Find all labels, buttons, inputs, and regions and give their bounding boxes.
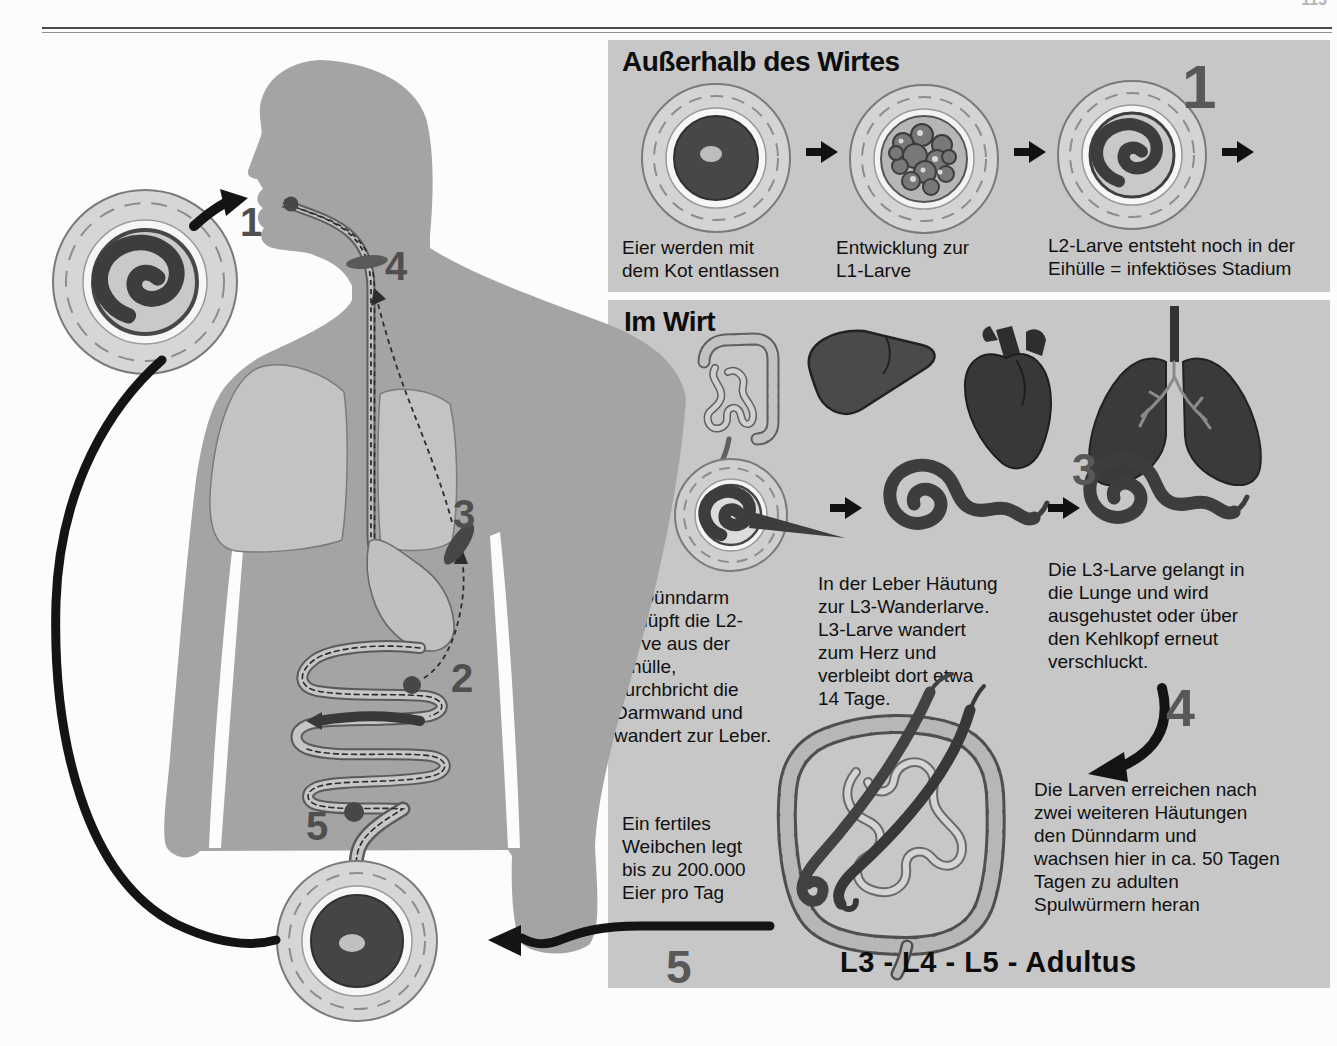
body-lungs-icon <box>210 365 457 552</box>
step-arrow-icon <box>830 497 862 519</box>
body-esophagus-icon <box>283 203 396 577</box>
panel-inside-host: Im Wirt <box>608 300 1330 988</box>
panel-outside-host: Außerhalb des Wirtes <box>608 40 1330 292</box>
stage5-rectum-egg-dot <box>344 802 364 822</box>
step-arrow-icon <box>1222 141 1254 163</box>
page-number: 115 <box>1301 0 1327 9</box>
panel-stage-number-2: 2 <box>650 428 677 476</box>
stage4-throat-larva-icon <box>345 253 388 271</box>
body-stage-number-4: 4 <box>385 246 407 286</box>
text-fertile-female: Ein fertiles Weibchen legt bis zu 200.00… <box>622 812 792 904</box>
l3-wander-larva-icon <box>890 465 1047 523</box>
body-stage-number-2: 2 <box>451 658 473 698</box>
text-small-intestine-stage: Die Larven erreichen nach zwei weiteren … <box>1034 778 1334 916</box>
l3-lung-larva-icon <box>1090 459 1247 517</box>
stage1-mouth-larva-dot <box>284 197 299 212</box>
egg-hatching-icon <box>675 459 845 571</box>
step-arrow-icon <box>1014 141 1046 163</box>
panel-stage-number-1: 1 <box>1182 56 1216 118</box>
body-stage-number-5: 5 <box>306 806 328 846</box>
organ-icons-row <box>608 306 1330 486</box>
caption-egg-released: Eier werden mit dem Kot entlassen <box>622 236 807 282</box>
fresh-egg-illustration <box>277 861 437 1021</box>
step-arrow-icon <box>806 141 838 163</box>
panel-stage-number-5: 5 <box>666 944 692 990</box>
stage2-duodenum-larva-dot <box>403 676 421 694</box>
panel-host-title: Im Wirt <box>624 306 715 338</box>
larva-migration-route <box>376 296 464 678</box>
step-arrow-icon <box>1048 497 1080 519</box>
gut-route-arrowhead-icon <box>306 712 322 730</box>
panel-stage-number-4: 4 <box>1166 682 1195 734</box>
page-top-rule <box>42 27 1332 33</box>
liver-icon <box>809 331 935 414</box>
egg-fresh-icon <box>642 84 790 232</box>
text-liver-stage: In der Leber Häutung zur L3-Wanderlarve.… <box>818 572 1033 710</box>
egg-morula-icon <box>850 85 998 233</box>
route-arrowhead-icon <box>371 288 386 306</box>
caption-l2-infective: L2-Larve entsteht noch in der Eihülle = … <box>890 234 1310 280</box>
body-stage-number-1: 1 <box>240 202 262 242</box>
heart-icon <box>965 326 1051 468</box>
body-stomach-icon <box>367 539 454 651</box>
route-arrowhead-icon <box>351 866 366 882</box>
route-arrowhead-icon <box>454 546 468 564</box>
adult-worm-in-gut-icon <box>318 716 420 721</box>
step-arrow-icon <box>613 497 645 519</box>
egg-release-arrowhead-icon <box>488 925 521 956</box>
text-duodenum-stage: Im Dünndarm schlüpft die L2- Larve aus d… <box>614 586 779 747</box>
development-stages-label: L3 - L4 - L5 - Adultus <box>840 946 1137 979</box>
text-lung-stage: Die L3-Larve gelangt in die Lunge und wi… <box>1048 558 1308 673</box>
panel-outside-title: Außerhalb des Wirtes <box>622 46 900 78</box>
intestine-with-adult-worms-illustration <box>756 672 1032 982</box>
lungs-icon <box>1089 306 1261 485</box>
panel-stage-number-3: 3 <box>1072 448 1096 492</box>
textbook-figure-ascaris-lifecycle: 115 <box>0 0 1337 1046</box>
infective-egg-illustration <box>53 190 237 374</box>
intestine-icon <box>704 339 773 465</box>
body-stage-number-3: 3 <box>453 494 475 534</box>
